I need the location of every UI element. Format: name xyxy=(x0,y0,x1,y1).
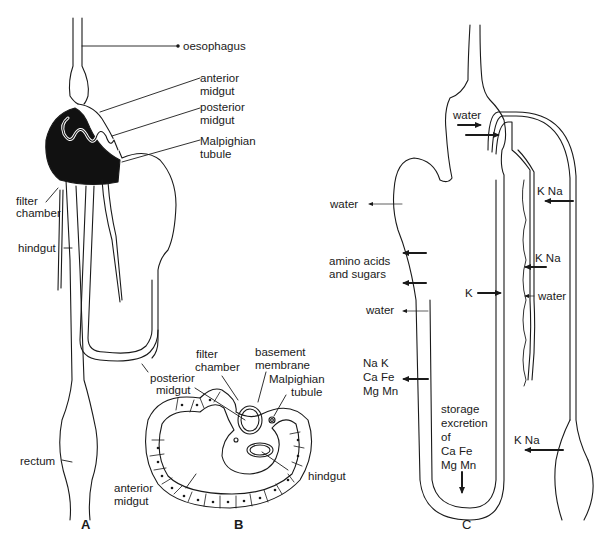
label-malpighian-b-2: tubule xyxy=(291,386,322,399)
label-anterior-midgut-b-2: midgut xyxy=(114,495,149,508)
label-anterior-midgut-a-1: anterior xyxy=(200,72,239,85)
label-water-right: water xyxy=(538,290,566,303)
label-storage-3: of xyxy=(441,431,451,444)
label-storage-4: Ca Fe xyxy=(441,445,472,458)
label-amino-acids: amino acids xyxy=(329,255,390,268)
label-posterior-midgut-a-1: posterior xyxy=(200,101,245,114)
diagram-artwork xyxy=(0,0,609,540)
label-malpighian-a-2: tubule xyxy=(200,148,231,161)
label-water-mid: water xyxy=(366,304,394,317)
label-oesophagus: oesophagus xyxy=(183,40,246,53)
panel-label-a: A xyxy=(81,517,90,532)
label-storage-5: Mg Mn xyxy=(441,459,476,472)
label-k: K xyxy=(465,287,473,300)
panel-a-drawing xyxy=(46,18,200,520)
label-water-top: water xyxy=(453,109,481,122)
label-malpighian-b-1: Malpighian xyxy=(269,373,325,386)
label-posterior-midgut-a-low-2: midgut xyxy=(156,384,191,397)
label-anterior-midgut-b-1: anterior xyxy=(114,482,153,495)
label-k-na-1: K Na xyxy=(537,185,563,198)
label-ions-2: Ca Fe xyxy=(363,371,394,384)
label-k-na-2: K Na xyxy=(535,252,561,265)
label-k-na-3: K Na xyxy=(514,434,540,447)
label-filter-chamber-a-2: chamber xyxy=(16,207,61,220)
label-filter-chamber-b-2: chamber xyxy=(195,361,240,374)
label-hindgut-b: hindgut xyxy=(308,470,346,483)
label-rectum: rectum xyxy=(20,455,55,468)
label-ions-1: Na K xyxy=(363,357,389,370)
label-hindgut-a: hindgut xyxy=(18,242,56,255)
panel-label-b: B xyxy=(234,517,243,532)
label-basement-membrane-2: membrane xyxy=(255,359,310,372)
label-water-left: water xyxy=(330,198,358,211)
label-storage-1: storage xyxy=(441,403,479,416)
panel-c-drawing xyxy=(368,25,593,520)
label-ions-3: Mg Mn xyxy=(363,385,398,398)
label-storage-2: excretion xyxy=(441,417,488,430)
label-basement-membrane-1: basement xyxy=(255,346,306,359)
label-anterior-midgut-a-2: midgut xyxy=(200,85,235,98)
label-posterior-midgut-a-2: midgut xyxy=(200,114,235,127)
panel-label-c: C xyxy=(462,517,471,532)
label-malpighian-a-1: Malpighian xyxy=(200,135,256,148)
label-filter-chamber-b-1: filter xyxy=(196,348,218,361)
label-and-sugars: and sugars xyxy=(329,268,386,281)
